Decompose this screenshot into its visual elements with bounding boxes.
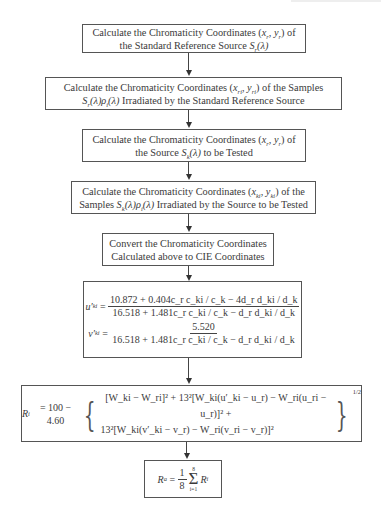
- arrow-down-icon: [186, 122, 192, 128]
- arrow-down-icon: [186, 226, 192, 232]
- step-3-line-2: the Source Sk(λ) to be Tested: [135, 146, 253, 159]
- step-2-reference-samples-chromaticity: Calculate the Chromaticity Coordinates (…: [45, 77, 342, 110]
- step-1-reference-source-chromaticity: Calculate the Chromaticity Coordinates (…: [82, 24, 306, 53]
- connector-1-2: [188, 53, 189, 71]
- step-5-convert-to-cie: Convert the Chromaticity Coordinates Cal…: [102, 233, 274, 266]
- ri-equation: Ri = 100 − 4.60 { [W_ki − W_ri]² + 13²[W…: [22, 390, 361, 438]
- ri-row-2: 13²[W_ki(v′_ki − v_r) − W_ri(v_ri − v_r)…: [100, 422, 273, 438]
- step-5-line-1: Convert the Chromaticity Coordinates: [109, 237, 267, 250]
- summation-symbol: 8 Σ i=1: [189, 466, 199, 492]
- v-prime-numerator: 5.520: [190, 321, 217, 334]
- ri-row-1: [W_ki − W_ri]² + 13²[W_ki(u′_ki − u_r) −…: [100, 390, 331, 422]
- ri-brace-content: [W_ki − W_ri]² + 13²[W_ki(u′_ki − u_r) −…: [100, 390, 331, 438]
- left-brace: {: [84, 399, 96, 429]
- arrow-down-icon: [186, 70, 192, 76]
- step-5-line-2: Calculated above to CIE Coordinates: [111, 250, 264, 263]
- step-2-line-2: Sr(λ)ρi(λ) Irradiated by the Standard Re…: [82, 94, 304, 107]
- page-edge-shade: [291, 0, 381, 2]
- step-7-ri-formula: Ri = 100 − 4.60 { [W_ki − W_ri]² + 13²[W…: [21, 385, 362, 442]
- step-4-line-2: Samples Sk(λ)ρi(λ) Irradiated by the Sou…: [79, 198, 308, 211]
- u-prime-equation: u′ki = 10.872 + 0.404c_r c_ki / c_k − 4d…: [86, 294, 300, 319]
- step-6-uv-formulas: u′ki = 10.872 + 0.404c_r c_ki / c_k − 4d…: [83, 281, 302, 358]
- u-prime-numerator: 10.872 + 0.404c_r c_ki / c_k − 4d_r d_ki…: [108, 294, 299, 307]
- ra-equation: Ra = 1 8 8 Σ i=1 Ri: [158, 466, 209, 492]
- v-prime-equation: v′ki = 5.520 16.518 + 1.481c_r c_ki / c_…: [88, 321, 296, 346]
- step-3-test-source-chromaticity: Calculate the Chromaticity Coordinates (…: [82, 129, 306, 162]
- arrow-down-icon: [186, 174, 192, 180]
- right-brace: }: [336, 399, 348, 429]
- step-2-line-1: Calculate the Chromaticity Coordinates (…: [64, 81, 323, 94]
- step-4-line-1: Calculate the Chromaticity Coordinates (…: [82, 185, 305, 198]
- v-prime-fraction: 5.520 16.518 + 1.481c_r c_ki / c_k − d_r…: [110, 321, 296, 346]
- step-3-line-1: Calculate the Chromaticity Coordinates (…: [92, 133, 295, 146]
- ra-fraction: 1 8: [178, 467, 187, 492]
- v-prime-denominator: 16.518 + 1.481c_r c_ki / c_k − d_r d_ki …: [110, 334, 296, 346]
- step-1-line-1: Calculate the Chromaticity Coordinates (…: [92, 26, 295, 39]
- arrow-down-icon: [184, 453, 190, 459]
- arrow-down-icon: [186, 378, 192, 384]
- u-prime-fraction: 10.872 + 0.404c_r c_ki / c_k − 4d_r d_ki…: [108, 294, 299, 319]
- u-prime-denominator: 16.518 + 1.481c_r c_ki / c_k − d_r d_ki …: [111, 307, 297, 319]
- step-1-line-2: the Standard Reference Source Sr(λ): [120, 39, 269, 52]
- step-8-ra-formula: Ra = 1 8 8 Σ i=1 Ri: [144, 460, 222, 498]
- step-4-test-samples-chromaticity: Calculate the Chromaticity Coordinates (…: [71, 181, 316, 214]
- connector-6-7: [188, 358, 189, 379]
